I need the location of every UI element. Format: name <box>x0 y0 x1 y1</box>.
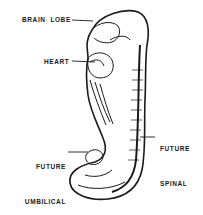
heart <box>88 53 114 78</box>
brain-lobe-leader <box>72 20 93 21</box>
label-heart: HEART <box>44 56 69 68</box>
label-future-spinal-cord: FUTURE SPINAL CORD <box>160 120 190 215</box>
spinal-line-1: FUTURE <box>160 143 190 155</box>
umbilical-line-1: FUTURE <box>24 161 66 173</box>
spinal-cord <box>112 45 140 192</box>
spinal-line-3: CORD <box>160 212 190 215</box>
spinal-line-2: SPINAL <box>160 178 190 190</box>
brain-lobe <box>92 23 120 43</box>
label-future-umbilical-cord: FUTURE UMBILICAL CORD <box>24 138 66 215</box>
embryo-outline <box>70 11 148 200</box>
label-brain-lobe: BRAIN LOBE <box>22 14 71 26</box>
umbilical-line-2: UMBILICAL <box>24 196 66 208</box>
